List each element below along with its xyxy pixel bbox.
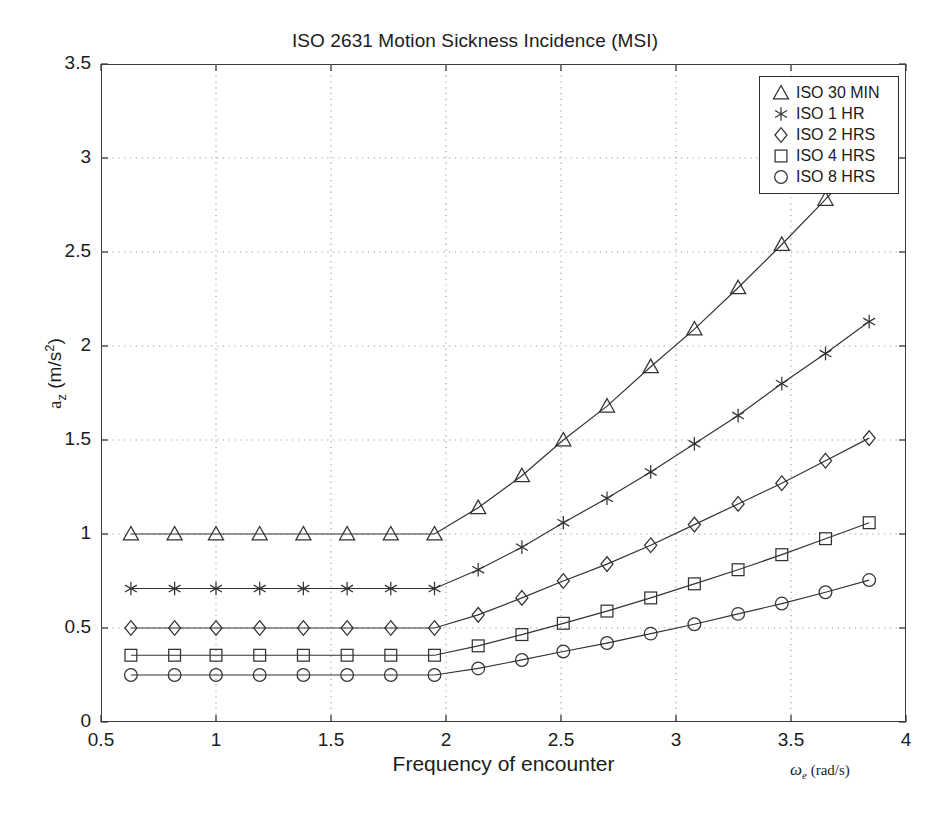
omega-symbol: ω (790, 760, 802, 779)
x-tick-label: 3.5 (751, 729, 831, 751)
x-tick-label: 1.5 (291, 729, 371, 751)
marker-diamond (775, 127, 787, 142)
triangle-icon (766, 83, 796, 103)
x-tick-label: 0.5 (61, 729, 141, 751)
chart-legend: ISO 30 MINISO 1 HRISO 2 HRSISO 4 HRSISO … (759, 76, 899, 194)
square-icon (766, 146, 796, 166)
rad-per-s-text: (rad/s) (807, 762, 850, 778)
y-tick-label: 3.5 (21, 52, 91, 74)
legend-item-label: ISO 4 HRS (796, 147, 875, 165)
x-tick-label: 1 (176, 729, 256, 751)
legend-item-3: ISO 4 HRS (766, 145, 892, 166)
chart-title: ISO 2631 Motion Sickness Incidence (MSI) (0, 30, 950, 52)
y-tick-label: 3 (21, 146, 91, 168)
legend-item-4: ISO 8 HRS (766, 166, 892, 187)
legend-item-0: ISO 30 MIN (766, 82, 892, 103)
diamond-icon (766, 125, 796, 145)
y-tick-label: 1.5 (21, 428, 91, 450)
y-tick-label: 1 (21, 522, 91, 544)
x-axis-unit-label: ωe (rad/s) (790, 760, 940, 781)
legend-item-label: ISO 2 HRS (796, 126, 875, 144)
x-tick-label: 3 (636, 729, 716, 751)
x-tick-label: 4 (866, 729, 946, 751)
marker-square (775, 150, 787, 162)
asterisk-icon (766, 104, 796, 124)
marker-circle (775, 170, 788, 183)
legend-item-label: ISO 1 HR (796, 105, 864, 123)
circle-icon (766, 167, 796, 187)
legend-item-label: ISO 8 HRS (796, 168, 875, 186)
x-axis-label: Frequency of encounter (101, 752, 906, 776)
legend-item-label: ISO 30 MIN (796, 84, 880, 102)
x-tick-label: 2.5 (521, 729, 601, 751)
legend-item-2: ISO 2 HRS (766, 124, 892, 145)
marker-triangle (773, 85, 788, 98)
x-tick-label: 2 (406, 729, 486, 751)
y-tick-label: 2.5 (21, 240, 91, 262)
figure-canvas: ISO 2631 Motion Sickness Incidence (MSI)… (0, 0, 950, 816)
legend-item-1: ISO 1 HR (766, 103, 892, 124)
y-tick-label: 0.5 (21, 616, 91, 638)
y-tick-label: 2 (21, 334, 91, 356)
